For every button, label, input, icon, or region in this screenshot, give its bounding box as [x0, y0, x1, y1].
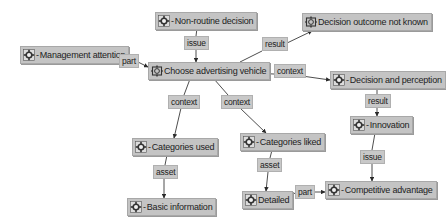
- gear-box-icon: [305, 16, 317, 28]
- edge-label-context-right[interactable]: context: [274, 64, 306, 78]
- edge-label-to-detailed-arrow: [266, 172, 268, 191]
- node-label: Decision and perception: [350, 75, 442, 85]
- node-label: Management attention: [40, 50, 126, 60]
- node-label: Basic information: [147, 202, 213, 212]
- node-detailed[interactable]: Detailed: [242, 191, 293, 209]
- edge-label-asset-2[interactable]: asset: [257, 158, 282, 172]
- edge-label-to-decision-outcome-not-known-arrow: [285, 31, 312, 44]
- node-innovation[interactable]: - Innovation: [350, 116, 413, 134]
- edge-label-issue-2[interactable]: issue: [360, 150, 385, 164]
- edge-label-to-categories-used-arrow: [174, 108, 181, 138]
- node-prefix: -: [143, 202, 146, 212]
- edge-categories-used-to-label: [165, 155, 167, 165]
- edge-choose-advertising-vehicle-to-label: [240, 51, 262, 62]
- node-label: Innovation: [370, 120, 410, 130]
- node-non-routine-decision[interactable]: - Non-routine decision: [155, 12, 257, 30]
- edge-label-asset-1[interactable]: asset: [153, 165, 178, 179]
- edge-label-part-1[interactable]: part: [119, 54, 139, 68]
- node-basic-information[interactable]: - Basic information: [127, 198, 216, 216]
- node-label: Detailed: [258, 195, 289, 205]
- gear-flower-icon: [245, 194, 257, 206]
- node-choose-advertising-vehicle[interactable]: Choose advertising vehicle: [148, 62, 270, 80]
- node-prefix: -: [36, 50, 39, 60]
- node-label: Decision outcome not known: [318, 17, 428, 27]
- edge-categories-liked-to-label: [270, 150, 272, 158]
- edge-label-result-1[interactable]: result: [262, 37, 288, 51]
- node-prefix: -: [148, 142, 151, 152]
- gear-flower-icon: [158, 15, 170, 27]
- edge-choose-advertising-vehicle-to-label: [184, 79, 190, 95]
- node-competitive-advantage[interactable]: - Competitive advantage: [325, 181, 437, 199]
- node-label: Categories liked: [260, 137, 321, 147]
- node-prefix: -: [366, 120, 369, 130]
- node-label: Choose advertising vehicle: [164, 66, 266, 76]
- node-prefix: -: [171, 16, 174, 26]
- node-label: Competitive advantage: [345, 185, 433, 195]
- gear-flower-icon: [333, 74, 345, 86]
- edge-choose-advertising-vehicle-to-label: [214, 79, 228, 95]
- edge-label-result-2[interactable]: result: [365, 94, 391, 108]
- edge-label-to-decision-and-perception-arrow: [302, 76, 330, 80]
- gear-flower-icon: [243, 136, 255, 148]
- gear-flower-icon: [135, 141, 147, 153]
- gear-flower-icon: [23, 49, 35, 61]
- node-label: Categories used: [152, 142, 215, 152]
- node-categories-used[interactable]: - Categories used: [132, 138, 218, 156]
- gear-flower-icon: [130, 201, 142, 213]
- node-prefix: -: [341, 185, 344, 195]
- edge-label-context-mid[interactable]: context: [221, 95, 253, 109]
- edge-label-context-left[interactable]: context: [168, 95, 200, 109]
- edge-innovation-to-label: [372, 133, 375, 150]
- node-prefix: -: [256, 137, 259, 147]
- gear-box-icon: [151, 65, 163, 77]
- node-label: Non-routine decision: [175, 16, 254, 26]
- node-management-attention[interactable]: - Management attention: [20, 46, 129, 64]
- node-prefix: -: [346, 75, 349, 85]
- node-decision-and-perception[interactable]: - Decision and perception: [330, 71, 446, 89]
- gear-flower-icon: [328, 184, 340, 196]
- edge-label-to-categories-liked-arrow: [240, 108, 266, 133]
- gear-flower-icon: [353, 119, 365, 131]
- edge-label-part-2[interactable]: part: [295, 185, 315, 199]
- edge-label-issue-1[interactable]: issue: [184, 36, 209, 50]
- node-categories-liked[interactable]: - Categories liked: [240, 133, 325, 151]
- node-decision-outcome-not-known[interactable]: Decision outcome not known: [302, 13, 432, 31]
